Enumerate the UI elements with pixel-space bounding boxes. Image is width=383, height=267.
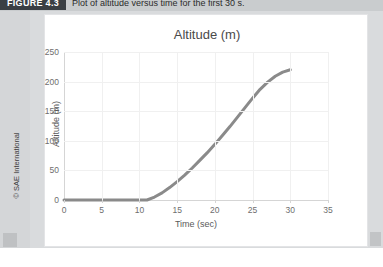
x-axis-tick-label: 15 bbox=[172, 205, 181, 215]
x-axis-tick-label: 20 bbox=[210, 205, 219, 215]
y-axis-tick-label: 250 bbox=[45, 47, 59, 57]
x-axis-tick-label: 5 bbox=[99, 205, 104, 215]
plot-area: 05010015020025005101520253035 bbox=[64, 52, 328, 200]
scrollbar-nub[interactable] bbox=[370, 232, 381, 246]
figure-caption-strip: FIGURE 4.3 Plot of altitude versus time … bbox=[0, 0, 383, 11]
chart-title: Altitude (m) bbox=[45, 27, 369, 42]
gridline-vertical bbox=[215, 52, 216, 200]
x-axis-tick-label: 35 bbox=[323, 205, 332, 215]
gridline-vertical bbox=[139, 52, 140, 200]
y-axis-tick-label: 0 bbox=[54, 195, 59, 205]
gridline-horizontal bbox=[64, 141, 328, 142]
figure-caption-text: Plot of altitude versus time for the fir… bbox=[72, 0, 245, 10]
figure-container: FIGURE 4.3 Plot of altitude versus time … bbox=[0, 0, 383, 267]
y-axis-tick-label: 200 bbox=[45, 77, 59, 87]
gridline-vertical bbox=[177, 52, 178, 200]
x-axis-tick-label: 30 bbox=[286, 205, 295, 215]
gridline-horizontal bbox=[64, 82, 328, 83]
x-axis-tick-mark bbox=[290, 200, 291, 203]
y-axis-tick-label: 100 bbox=[45, 136, 59, 146]
x-axis-tick-label: 10 bbox=[135, 205, 144, 215]
gridline-horizontal bbox=[64, 52, 328, 53]
x-axis-tick-mark bbox=[177, 200, 178, 203]
altitude-series-line bbox=[64, 52, 328, 200]
y-axis-tick-label: 150 bbox=[45, 106, 59, 116]
x-axis-tick-mark bbox=[215, 200, 216, 203]
y-axis-label: Altitude (m) bbox=[51, 87, 61, 161]
gridline-vertical bbox=[102, 52, 103, 200]
gridline-vertical bbox=[253, 52, 254, 200]
y-axis-tick-label: 50 bbox=[50, 165, 59, 175]
x-axis-tick-mark bbox=[64, 200, 65, 203]
x-axis-tick-label: 25 bbox=[248, 205, 257, 215]
page-corner-icon bbox=[3, 233, 17, 247]
left-gutter: © SAE International bbox=[0, 11, 30, 248]
gridline-horizontal bbox=[64, 111, 328, 112]
x-axis-tick-mark bbox=[139, 200, 140, 203]
gridline-vertical bbox=[328, 52, 329, 200]
page-background-lower bbox=[0, 248, 383, 267]
x-axis-tick-label: 0 bbox=[62, 205, 67, 215]
chart-panel: Altitude (m) Altitude (m) Time (sec) 050… bbox=[44, 14, 368, 247]
x-axis-tick-mark bbox=[253, 200, 254, 203]
gridline-vertical bbox=[290, 52, 291, 200]
x-axis-tick-mark bbox=[102, 200, 103, 203]
figure-number-badge: FIGURE 4.3 bbox=[0, 0, 66, 10]
x-axis-tick-mark bbox=[328, 200, 329, 203]
x-axis-label: Time (sec) bbox=[64, 219, 328, 229]
gridline-horizontal bbox=[64, 170, 328, 171]
copyright-notice: © SAE International bbox=[12, 96, 21, 236]
